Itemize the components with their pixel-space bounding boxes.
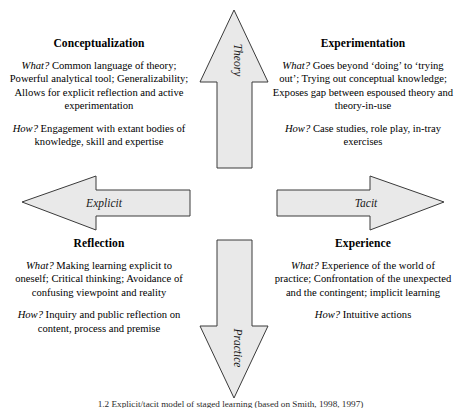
theory-arrow-label: Theory [231,44,244,77]
what-label: What? [22,60,50,71]
theory-arrow-up [200,10,268,168]
quadrant-experience-title: Experience [272,236,454,251]
quadrant-conceptualization-how-text: Engagement with extant bodies of knowled… [35,123,186,148]
figure-caption: 1.2 Explicit/tacit model of staged learn… [0,399,461,408]
quadrant-experimentation-how-text: Case studies, role play, in-tray exercis… [313,123,441,148]
quadrant-experience: Experience What? Experience of the world… [272,236,454,322]
quadrant-reflection-how-text: Inquiry and public reflection on content… [38,309,181,334]
what-label: What? [26,260,54,271]
practice-arrow-down [200,240,268,398]
what-label: What? [291,260,319,271]
quadrant-conceptualization-title: Conceptualization [8,36,190,51]
how-label: How? [285,123,310,134]
quadrant-conceptualization-what: What? Common language of theory; Powerfu… [8,59,190,113]
how-label: How? [13,123,38,134]
quadrant-experience-how: How? Intuitive actions [272,308,454,322]
quadrant-experimentation-title: Experimentation [272,36,454,51]
quadrant-experience-how-text: Intuitive actions [343,309,412,320]
how-label: How? [315,309,340,320]
figure-explicit-tacit-learning-model: Theory Practice Explicit Tacit Conceptua… [0,0,461,408]
tacit-arrow-label: Tacit [355,197,378,209]
quadrant-reflection: Reflection What? Making learning explici… [8,236,190,335]
quadrant-conceptualization-how: How? Engagement with extant bodies of kn… [8,122,190,149]
quadrant-experimentation: Experimentation What? Goes beyond ‘doing… [272,36,454,149]
explicit-arrow-label: Explicit [85,197,123,210]
how-label: How? [18,309,43,320]
quadrant-reflection-what: What? Making learning explicit to onesel… [8,259,190,300]
quadrant-experience-what: What? Experience of the world of practic… [272,259,454,300]
quadrant-conceptualization: Conceptualization What? Common language … [8,36,190,149]
what-label: What? [282,60,310,71]
quadrant-experimentation-how: How? Case studies, role play, in-tray ex… [272,122,454,149]
practice-arrow-label: Practice [232,328,244,368]
quadrant-experimentation-what: What? Goes beyond ‘doing’ to ‘trying out… [272,59,454,113]
quadrant-reflection-how: How? Inquiry and public reflection on co… [8,308,190,335]
quadrant-reflection-title: Reflection [8,236,190,251]
